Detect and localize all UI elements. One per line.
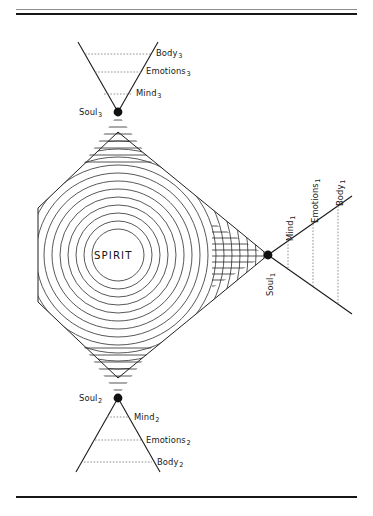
cone-1-label-mind-text: Mind (285, 220, 295, 241)
node-soul-3[interactable] (114, 108, 123, 117)
cone-2-label-emotions-sub: 2 (186, 439, 191, 447)
cone-1-label-emotions-text: Emotions (310, 183, 320, 223)
cone-2-label-mind: Mind2 (134, 413, 159, 422)
cone-1-label-soul-text: Soul (265, 278, 275, 296)
cone-2-label-mind-sub: 2 (155, 416, 160, 424)
cone-2-left-edge (76, 398, 118, 472)
cone-2-label-emotions-text: Emotions (146, 435, 186, 445)
cone-3-group (78, 42, 158, 162)
cone-1-label-mind-sub: 1 (289, 216, 297, 221)
cone-3-left-edge (78, 42, 118, 112)
cone-2-label-mind-text: Mind (134, 412, 155, 422)
cone-2-label-soul-sub: 2 (97, 397, 102, 405)
cone-3-label-mind-sub: 3 (157, 92, 162, 100)
cone-3-label-emotions-sub: 3 (186, 70, 191, 78)
cone-1-label-mind: Mind1 (286, 216, 295, 241)
cone-3-label-mind-text: Mind (136, 88, 157, 98)
node-soul-1[interactable] (264, 251, 273, 260)
cone-2-label-soul-text: Soul (79, 393, 97, 403)
cone-1-label-emotions-sub: 1 (314, 178, 322, 183)
cone-2-hatch (78, 348, 158, 390)
spirit-body-outline (38, 132, 268, 378)
cone-3-label-body-text: Body (156, 48, 178, 58)
cone-1-label-body-sub: 1 (339, 180, 347, 185)
cone-1-label-soul: Soul1 (266, 273, 275, 296)
cone-2-group (76, 348, 160, 472)
cone-3-label-soul: Soul3 (79, 108, 102, 117)
cone-3-right-edge (118, 42, 158, 112)
cone-3-label-body-sub: 3 (178, 52, 183, 60)
cone-2-label-soul: Soul2 (79, 394, 102, 403)
node-soul-2[interactable] (114, 394, 123, 403)
figure-root: SPIRIT Body3 Emotions3 Mind3 Soul3 Soul2… (0, 0, 373, 516)
cone-1-label-body: Body1 (336, 180, 345, 206)
cone-3-label-body: Body3 (156, 49, 182, 58)
cone-1-label-soul-sub: 1 (269, 273, 277, 278)
cone-2-label-body-text: Body (157, 457, 179, 467)
cone-1-hatch (210, 226, 270, 286)
cone-3-label-soul-text: Soul (79, 107, 97, 117)
cone-1-bottom-edge (268, 255, 352, 314)
cone-2-label-emotions: Emotions2 (146, 436, 191, 445)
cone-1-label-emotions: Emotions1 (311, 178, 320, 223)
cone-2-label-body: Body2 (157, 458, 183, 467)
cone-1-label-body-text: Body (335, 184, 345, 206)
spirit-center-label: SPIRIT (94, 250, 133, 261)
cone-3-label-soul-sub: 3 (97, 111, 102, 119)
cone-3-label-mind: Mind3 (136, 89, 161, 98)
cone-3-label-emotions: Emotions3 (146, 67, 191, 76)
figure-caption (30, 507, 360, 516)
cone-1-group (210, 196, 352, 314)
cone-3-label-emotions-text: Emotions (146, 66, 186, 76)
cone-2-label-body-sub: 2 (179, 461, 184, 469)
cone-3-hatch (78, 120, 158, 162)
